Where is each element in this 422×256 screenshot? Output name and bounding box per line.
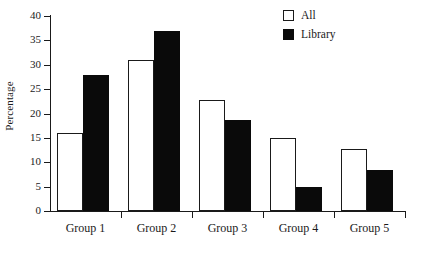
bar-all (341, 149, 367, 211)
bar-library (296, 187, 322, 211)
bar-library (83, 75, 109, 212)
x-separator-tick (334, 212, 335, 218)
y-tick-label: 25 (3, 82, 41, 94)
y-tick-label: 10 (3, 155, 41, 167)
bar-library (225, 120, 251, 211)
x-axis-line (50, 211, 406, 212)
legend-item-library: Library (283, 28, 335, 41)
bar-all (270, 138, 296, 211)
x-category-label: Group 2 (121, 221, 192, 236)
bar-library (154, 31, 180, 211)
y-tick-label-wrap: 20 (0, 114, 41, 115)
y-tick-mark (44, 211, 50, 212)
plot-area (50, 16, 405, 211)
hollow-square-swatch-icon (283, 10, 294, 21)
x-separator-tick (263, 212, 264, 218)
x-axis-end-tick (405, 212, 406, 218)
bar-chart: Percentage 0510152025303540 Group 1Group… (0, 0, 422, 256)
y-tick-label: 15 (3, 131, 41, 143)
y-tick-label-wrap: 0 (0, 211, 41, 212)
x-separator-tick (121, 212, 122, 218)
y-tick-label: 0 (3, 204, 41, 216)
bar-all (199, 100, 225, 211)
y-tick-label: 5 (3, 180, 41, 192)
x-category-label: Group 3 (192, 221, 263, 236)
filled-square-swatch-icon (283, 29, 294, 40)
y-tick-label-wrap: 25 (0, 89, 41, 90)
legend: All Library (283, 9, 335, 41)
legend-item-all: All (283, 9, 335, 22)
y-tick-label: 20 (3, 107, 41, 119)
y-tick-label-wrap: 5 (0, 187, 41, 188)
bar-all (128, 60, 154, 211)
x-separator-tick (192, 212, 193, 218)
y-tick-label: 30 (3, 58, 41, 70)
legend-label-library: Library (301, 29, 335, 41)
x-category-label: Group 1 (50, 221, 121, 236)
bar-all (57, 133, 83, 211)
x-category-label: Group 4 (263, 221, 334, 236)
legend-label-all: All (301, 10, 316, 22)
y-tick-label-wrap: 40 (0, 16, 41, 17)
y-tick-label: 35 (3, 33, 41, 45)
x-category-label: Group 5 (334, 221, 405, 236)
y-tick-label-wrap: 35 (0, 40, 41, 41)
y-tick-label-wrap: 10 (0, 162, 41, 163)
y-tick-label: 40 (3, 9, 41, 21)
bar-library (367, 170, 393, 211)
y-tick-label-wrap: 15 (0, 138, 41, 139)
y-tick-label-wrap: 30 (0, 65, 41, 66)
